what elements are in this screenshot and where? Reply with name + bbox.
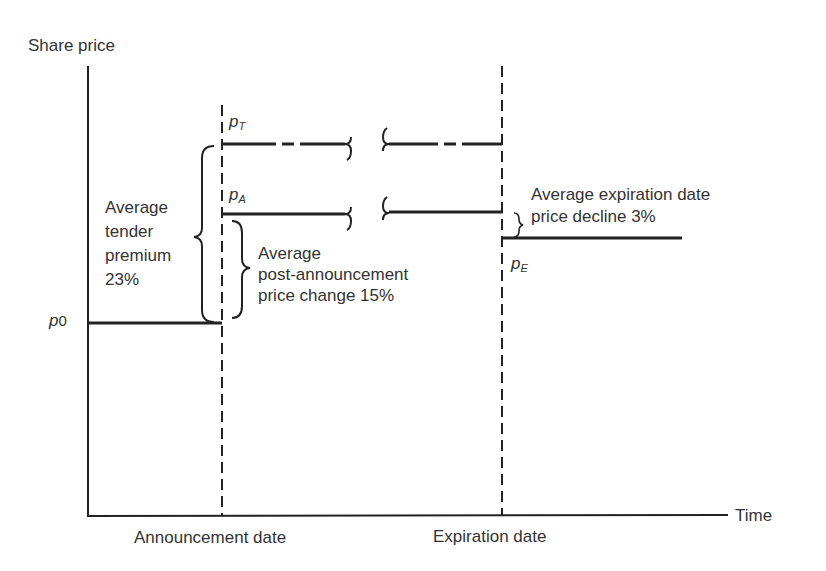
- x-axis: [87, 515, 728, 516]
- post-announcement-annotation: Average post-announcement price change 1…: [258, 243, 408, 306]
- tender-premium-annotation: Average tender premium 23%: [105, 196, 171, 292]
- expiration-decline-annotation-line1: Average expiration date: [531, 184, 710, 205]
- expiration-decline-brace: [514, 213, 523, 237]
- y-axis-label: Share price: [28, 35, 115, 56]
- pT-label: pT: [229, 112, 245, 132]
- x-axis-label: Time: [735, 505, 772, 526]
- pA-line: [222, 197, 502, 230]
- pA-label: pA: [229, 185, 246, 205]
- p0-label: p0: [49, 311, 67, 331]
- pE-label: pE: [511, 254, 528, 274]
- pT-line: [222, 128, 502, 160]
- expiration-date-label: Expiration date: [433, 526, 546, 547]
- announcement-date-label: Announcement date: [134, 527, 286, 548]
- expiration-decline-annotation-line2: price decline 3%: [531, 206, 656, 227]
- tender-premium-brace: [194, 146, 214, 322]
- post-announcement-brace: [232, 221, 250, 318]
